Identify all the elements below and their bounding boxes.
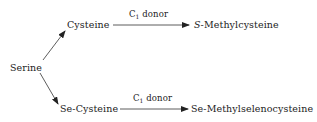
top-reagent-label: C1 donor	[129, 10, 168, 20]
se-methylselenocysteine-label: Se-Methylselenocysteine	[191, 104, 313, 114]
serine-to-cysteine-arrow	[43, 31, 65, 60]
pathway-diagram: Serine Cysteine C1 donor S-Methylcystein…	[0, 0, 317, 122]
bottom-reagent-label: C1 donor	[133, 94, 172, 104]
serine-to-se-cysteine-arrow	[40, 73, 58, 104]
se-cysteine-label: Se-Cysteine	[60, 104, 118, 114]
cysteine-label: Cysteine	[67, 20, 110, 30]
s-methylcysteine-label: S-Methylcysteine	[194, 20, 279, 30]
serine-label: Serine	[10, 63, 42, 73]
